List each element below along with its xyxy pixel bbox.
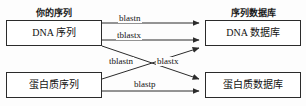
node-dna-sequence-label: DNA 序列 (32, 28, 76, 38)
edge-label-tblastx: tblastx (116, 31, 142, 40)
node-protein-database-label: 蛋白质数据库 (223, 80, 283, 90)
node-protein-database[interactable]: 蛋白质数据库 (205, 72, 301, 98)
node-dna-database-label: DNA 数据库 (226, 28, 280, 38)
edge-label-blastp: blastp (133, 80, 157, 89)
node-dna-sequence[interactable]: DNA 序列 (6, 20, 102, 46)
node-protein-sequence-label: 蛋白质序列 (29, 80, 79, 90)
column-header-sequence-database: 序列数据库 (205, 6, 301, 19)
edge-label-blastx: blastx (156, 57, 180, 66)
column-header-your-sequence: 你的序列 (6, 6, 102, 19)
edge-label-tblastn: tblastn (108, 57, 134, 66)
node-protein-sequence[interactable]: 蛋白质序列 (6, 72, 102, 98)
node-dna-database[interactable]: DNA 数据库 (205, 20, 301, 46)
edge-label-blastn: blastn (118, 14, 142, 23)
